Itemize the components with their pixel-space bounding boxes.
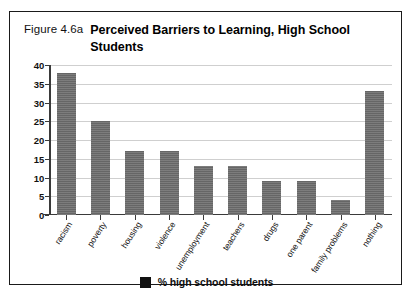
y-axis-tick <box>45 121 49 122</box>
x-tick-label-text: housing <box>119 220 143 250</box>
x-label-slot: housing <box>118 218 152 276</box>
bar <box>91 121 110 215</box>
x-tick-label-text: one parent <box>284 220 314 259</box>
bar-slot <box>83 65 117 215</box>
y-tick-label: 30 <box>34 97 44 108</box>
x-label-slot: family problems <box>323 218 357 276</box>
x-tick-label-text: drugs <box>260 220 280 243</box>
y-axis-labels: 0510152025303540 <box>18 65 44 215</box>
bar-slot <box>49 65 83 215</box>
y-tick-label: 20 <box>34 135 44 146</box>
x-tick-label-text: violence <box>152 220 177 251</box>
bar-slot <box>118 65 152 215</box>
legend-label: % high school students <box>158 276 274 288</box>
y-axis-tick <box>45 65 49 66</box>
chart-plot-wrapper: 0510152025303540 <box>10 65 403 215</box>
figure-number: Figure 4.6a <box>24 22 83 35</box>
y-axis-tick <box>45 84 49 85</box>
bar <box>57 73 76 216</box>
y-axis-tick <box>45 215 49 216</box>
x-label-slot: drugs <box>255 218 289 276</box>
y-tick-label: 15 <box>34 153 44 164</box>
x-label-slot: poverty <box>83 218 117 276</box>
legend-swatch-icon <box>140 277 151 288</box>
x-tick-label-text: racism <box>53 220 75 246</box>
x-label-slot: unemployment <box>186 218 220 276</box>
x-label-slot: nothing <box>358 218 392 276</box>
bar-slot <box>255 65 289 215</box>
x-tick-label-text: teachers <box>220 220 246 252</box>
bar-slot <box>289 65 323 215</box>
y-axis-tick <box>45 103 49 104</box>
y-axis-tick <box>45 178 49 179</box>
bar <box>160 151 179 215</box>
bar <box>125 151 144 215</box>
x-label-slot: racism <box>49 218 83 276</box>
y-tick-label: 35 <box>34 78 44 89</box>
x-tick-label-text: nothing <box>360 220 383 249</box>
y-tick-label: 5 <box>39 191 44 202</box>
y-axis-tick <box>45 159 49 160</box>
y-tick-label: 40 <box>34 60 44 71</box>
y-axis-tick <box>45 196 49 197</box>
chart-legend: % high school students <box>10 276 403 288</box>
bar-slot <box>152 65 186 215</box>
y-tick-label: 10 <box>34 172 44 183</box>
x-axis-labels: racismpovertyhousingviolenceunemployment… <box>49 218 392 276</box>
figure-frame: Figure 4.6a Perceived Barriers to Learni… <box>9 11 402 285</box>
figure-title-block: Figure 4.6a Perceived Barriers to Learni… <box>24 22 384 55</box>
y-tick-label: 0 <box>39 210 44 221</box>
y-axis-tick <box>45 140 49 141</box>
y-tick-label: 25 <box>34 116 44 127</box>
bar-slot <box>186 65 220 215</box>
x-tick-label-text: poverty <box>85 220 108 248</box>
x-label-slot: teachers <box>220 218 254 276</box>
page-title: Perceived Barriers to Learning, High Sch… <box>90 22 384 55</box>
